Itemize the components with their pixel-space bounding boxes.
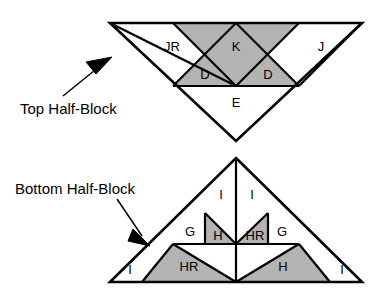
piece-label-I-top-right: I — [250, 187, 254, 202]
piece-label-E: E — [232, 95, 241, 110]
bottom-half-block-group: IIGGHHRHRHII — [110, 158, 362, 282]
piece-label-D-left: D — [200, 67, 209, 82]
piece-label-I-bottom-left: I — [128, 262, 132, 277]
piece-label-H-lower: H — [278, 259, 287, 274]
callout-arrows — [63, 57, 150, 246]
piece-label-I-top-left: I — [219, 187, 223, 202]
top-half-block-group: JRKJDDE — [110, 23, 362, 141]
piece-label-K: K — [232, 39, 241, 54]
figure-canvas: JRKJDDE IIGGHHRHRHII Top Half-Block Bott… — [0, 0, 380, 299]
piece-label-JR: JR — [164, 39, 180, 54]
piece-label-G-left: G — [185, 224, 195, 239]
piece-label-H-upper: H — [213, 228, 222, 243]
piece-label-D-right: D — [263, 67, 272, 82]
piece-label-HR-lower: HR — [180, 259, 199, 274]
top-callout-arrow-head — [86, 57, 112, 74]
piece-label-I-bottom-right: I — [340, 262, 344, 277]
top-half-block-callout-label: Top Half-Block — [20, 100, 117, 117]
piece-label-J: J — [318, 39, 325, 54]
bottom-callout-arrow-tail — [117, 199, 142, 236]
piece-label-G-right: G — [277, 224, 287, 239]
bottom-half-block-callout-label: Bottom Half-Block — [15, 180, 136, 197]
piece-label-HR-upper: HR — [246, 228, 265, 243]
piece-E — [173, 86, 299, 141]
quilt-half-block-diagram: JRKJDDE IIGGHHRHRHII Top Half-Block Bott… — [0, 0, 380, 299]
